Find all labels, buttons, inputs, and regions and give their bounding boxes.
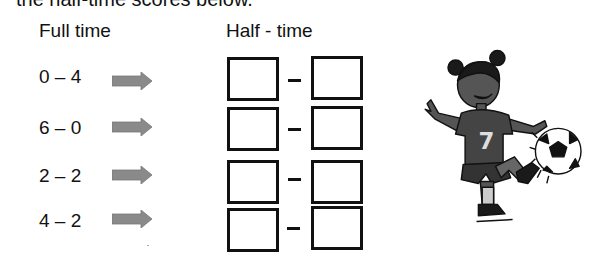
half-time-away-input[interactable] [311,160,363,204]
full-time-score: 4 – 2 [39,210,81,232]
full-time-score: 6 – 0 [39,117,81,139]
half-time-home-input[interactable] [227,160,279,204]
score-separator [288,79,301,82]
half-time-away-input[interactable] [311,106,363,150]
full-time-score: 0 – 4 [39,66,81,88]
half-time-home-input[interactable] [227,208,279,252]
shirt-number: 7 [478,128,494,154]
soccer-girl-illustration: 7 [410,40,600,230]
score-separator [288,178,301,181]
arrow-right-icon [112,210,152,228]
half-time-away-input[interactable] [311,206,363,250]
full-time-header: Full time [39,20,111,42]
stray-mark [147,245,149,246]
half-time-home-input[interactable] [227,107,279,151]
score-separator [287,227,300,230]
score-separator [288,128,301,131]
arrow-right-icon [112,118,152,136]
half-time-home-input[interactable] [227,57,279,101]
full-time-score: 2 – 2 [39,165,81,187]
arrow-right-icon [112,72,152,90]
instruction-text: the half-time scores below. [16,0,253,11]
arrow-right-icon [112,166,152,184]
half-time-header: Half - time [226,20,313,42]
half-time-away-input[interactable] [311,56,363,100]
